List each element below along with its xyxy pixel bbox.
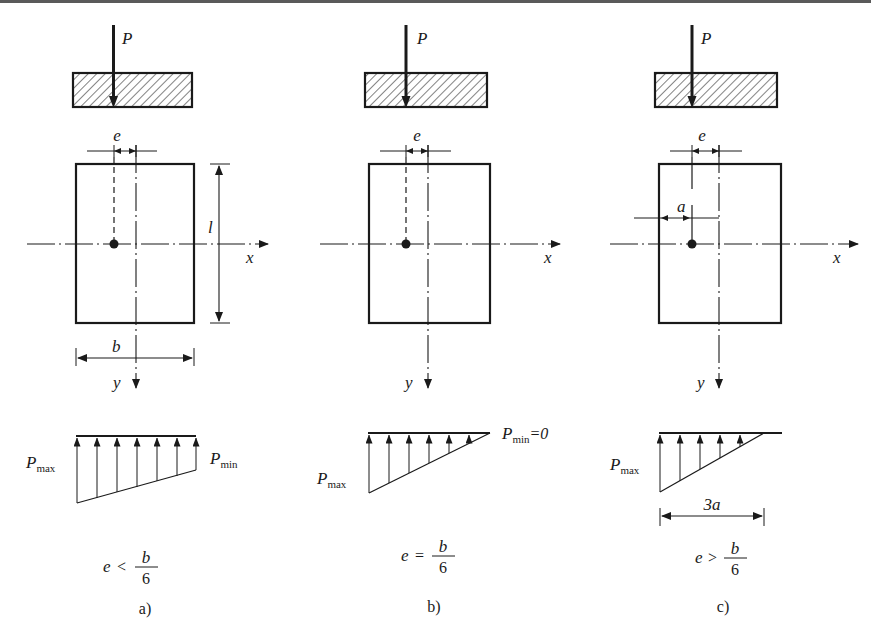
load-point-icon xyxy=(402,240,411,249)
condition-formula: e > b 6 xyxy=(695,539,747,578)
pmax-label: Pmax xyxy=(316,469,347,490)
y-axis-label: y xyxy=(111,373,121,392)
load-label: P xyxy=(700,29,711,48)
x-axis-label: x xyxy=(832,248,841,267)
pmax-label: Pmax xyxy=(25,453,56,474)
svg-text:e: e xyxy=(695,548,703,567)
svg-text:e: e xyxy=(401,546,409,565)
eccentricity-label: e xyxy=(698,126,706,145)
pressure-diagram-partial xyxy=(659,433,782,492)
condition-formula: e = b 6 xyxy=(401,537,455,576)
svg-text:<: < xyxy=(117,558,126,575)
condition-formula: e < b 6 xyxy=(103,548,158,587)
svg-text:6: 6 xyxy=(731,561,739,578)
eccentricity-label: e xyxy=(113,126,121,145)
svg-text:>: > xyxy=(708,549,717,566)
eccentricity-label: e xyxy=(413,126,421,145)
load-label: P xyxy=(121,29,132,48)
footing-block xyxy=(365,73,487,107)
load-point-icon xyxy=(110,240,119,249)
a-label: a xyxy=(677,197,686,216)
svg-text:b: b xyxy=(731,539,740,558)
panel-caption: a) xyxy=(139,600,151,618)
panel-a: P e x y l b xyxy=(25,25,268,618)
x-axis-label: x xyxy=(245,248,254,267)
pressure-diagram-triangle xyxy=(368,433,490,493)
pmax-label: Pmax xyxy=(609,455,640,476)
footing-block xyxy=(73,73,192,107)
eccentric-load-figure: P e x y l b xyxy=(0,0,871,638)
svg-text:b: b xyxy=(142,548,151,567)
panel-c: P e a x y Pmax xyxy=(609,25,858,616)
svg-text:e: e xyxy=(103,557,111,576)
contact-length-label: 3a xyxy=(703,495,721,514)
footing-block xyxy=(655,73,777,107)
y-axis-label: y xyxy=(695,373,705,392)
panel-caption: c) xyxy=(717,598,729,616)
y-axis-label: y xyxy=(403,373,413,392)
load-label: P xyxy=(416,29,427,48)
pmin-label: Pmin=0 xyxy=(501,424,548,445)
svg-text:b: b xyxy=(439,537,448,556)
load-point-icon xyxy=(688,240,697,249)
panel-caption: b) xyxy=(427,598,440,616)
svg-text:6: 6 xyxy=(439,559,447,576)
panel-b: P e x y Pmax Pmin=0 e = b xyxy=(316,25,560,616)
svg-text:=: = xyxy=(415,547,424,564)
height-label: l xyxy=(208,218,213,237)
x-axis-label: x xyxy=(543,248,552,267)
pmin-label: Pmin xyxy=(209,449,238,470)
width-label: b xyxy=(112,337,121,356)
pressure-diagram-trapezoid xyxy=(76,436,196,503)
svg-text:6: 6 xyxy=(142,570,150,587)
